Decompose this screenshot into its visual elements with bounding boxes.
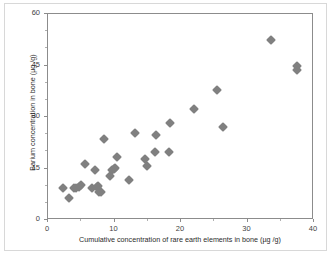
x-tick-mark-minor — [213, 219, 214, 221]
chart-screenshot: 015304560 010203040 Barium concentration… — [0, 0, 332, 256]
y-tick-label: 60 — [26, 9, 40, 17]
scatter-point — [99, 134, 109, 144]
x-tick-label: 0 — [37, 225, 57, 233]
x-tick-mark-minor — [80, 219, 81, 221]
scatter-point — [189, 104, 199, 114]
scatter-point — [266, 35, 276, 45]
x-tick-mark — [180, 219, 181, 222]
scatter-point — [218, 122, 228, 132]
x-axis-title: Cumulative concentration of rare earth e… — [47, 235, 313, 244]
x-tick-mark-minor — [280, 219, 281, 221]
scatter-point — [151, 130, 161, 140]
scatter-point — [150, 147, 160, 157]
y-axis-title: Barium concentration in bone (µg /g) — [28, 28, 37, 198]
scatter-point — [165, 118, 175, 128]
y-tick-label: 0 — [26, 215, 40, 223]
x-tick-mark — [114, 219, 115, 222]
x-tick-label: 10 — [104, 225, 124, 233]
scatter-point — [124, 175, 134, 185]
plot-area — [47, 13, 313, 219]
scatter-point — [130, 128, 140, 138]
x-tick-label: 40 — [303, 225, 323, 233]
scatter-point — [142, 161, 152, 171]
scatter-point — [112, 152, 122, 162]
x-tick-mark — [47, 219, 48, 222]
scatter-point — [212, 85, 222, 95]
scatter-point — [58, 183, 68, 193]
x-tick-label: 20 — [170, 225, 190, 233]
scatter-point — [80, 159, 90, 169]
scatter-point — [164, 147, 174, 157]
scatter-point — [90, 165, 100, 175]
x-tick-label: 30 — [237, 225, 257, 233]
scatter-point — [64, 193, 74, 203]
x-tick-mark — [247, 219, 248, 222]
x-tick-mark — [313, 219, 314, 222]
y-axis-title-container: Barium concentration in bone (µg /g) — [10, 0, 24, 232]
x-tick-mark-minor — [147, 219, 148, 221]
